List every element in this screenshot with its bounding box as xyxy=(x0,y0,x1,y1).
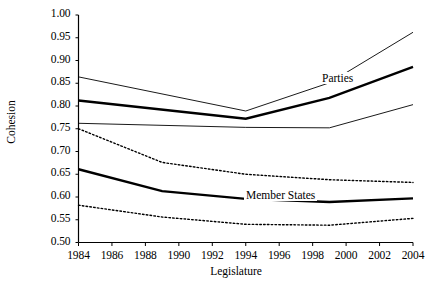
cohesion-line-chart: 0.500.550.600.650.700.750.800.850.900.95… xyxy=(0,0,435,294)
series-line-member-states-lower-bound xyxy=(79,205,414,225)
y-tick-label: 0.55 xyxy=(35,212,71,224)
y-tick-label: 0.85 xyxy=(35,75,71,87)
y-tick-label: 0.95 xyxy=(35,30,71,42)
y-tick-label: 0.70 xyxy=(35,144,71,156)
y-axis-title: Cohesion xyxy=(5,92,17,152)
x-tick-label: 2004 xyxy=(393,249,433,261)
y-tick-label: 0.90 xyxy=(35,53,71,65)
series-line-parties-upper-bound xyxy=(79,32,414,111)
y-tick-label: 0.65 xyxy=(35,166,71,178)
series-line-member-states-upper-bound xyxy=(79,129,414,183)
y-tick-label: 0.80 xyxy=(35,98,71,110)
series-line-parties-lower-bound xyxy=(79,105,414,128)
y-tick-label: 0.50 xyxy=(35,235,71,247)
y-tick-label: 0.60 xyxy=(35,189,71,201)
x-axis-title: Legislature xyxy=(186,265,286,277)
y-tick-label: 1.00 xyxy=(35,7,71,19)
series-label-member-states: Member States xyxy=(244,189,317,201)
y-tick-label: 0.75 xyxy=(35,121,71,133)
series-label-parties: Parties xyxy=(320,72,355,84)
